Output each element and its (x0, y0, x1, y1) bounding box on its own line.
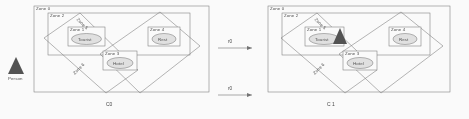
c0-tourist-label: Tourist (78, 37, 92, 42)
c0-hotel-label: Hotel (113, 61, 124, 66)
c1-zone0-label: Zone 0 (270, 6, 284, 11)
r0-bottom-arrowhead (247, 93, 252, 97)
c0-zone3-label: Zone 3 (105, 51, 119, 56)
c0-rest-label: Rest (158, 37, 167, 42)
r0-top-label: r0 (228, 39, 232, 44)
c1-hotel-label: Hotel (353, 61, 364, 66)
c0-person-label: Person (8, 76, 23, 81)
c1-zone3-label: Zone 3 (345, 51, 359, 56)
c0-zone0-rect (34, 6, 209, 92)
c1-rest-label: Rest (399, 37, 408, 42)
c0-zone0-label: Zone 0 (36, 6, 50, 11)
c0-canvas (0, 0, 235, 119)
c0-zone4-label: Zone 4 (150, 27, 164, 32)
c1-zone1-label: Zone 1 (307, 27, 321, 32)
state-panel-c1: Zone 0 Zone 2 Zone 5 Zone 6 Zone 1 Zone … (255, 0, 469, 119)
c1-caption: C 1 (327, 101, 335, 107)
c1-zone0-rect (268, 6, 450, 92)
state-panel-c0: Zone 0 Zone 2 Zone 5 Zone 6 Zone 1 Zone … (0, 0, 235, 119)
c0-caption: C0 (106, 101, 112, 107)
c1-zone2-label: Zone 2 (284, 13, 298, 18)
c0-zone1-label: Zone 1 (70, 27, 84, 32)
c1-canvas (255, 0, 469, 119)
r0-top-arrowhead (247, 46, 252, 50)
r0-bottom-label: r0 (228, 86, 232, 91)
c1-tourist-label: Tourist (315, 37, 329, 42)
c0-zone2-label: Zone 2 (50, 13, 64, 18)
c1-zone4-label: Zone 4 (391, 27, 405, 32)
c0-person-triangle-icon (8, 57, 24, 74)
